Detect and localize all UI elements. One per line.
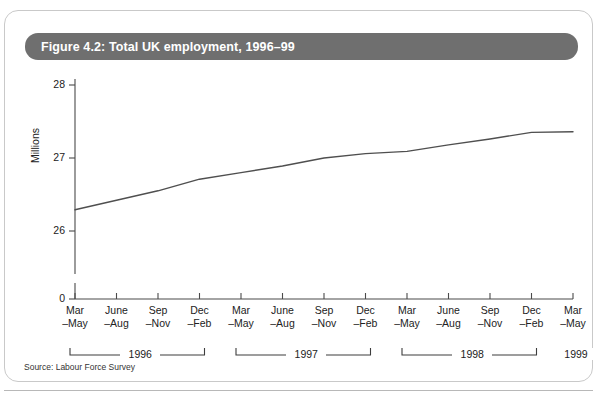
x-tick-label-line1: Sep <box>136 304 180 317</box>
x-tick-label-1: June–Aug <box>95 304 139 330</box>
x-tick-label-line2: –May <box>385 317 429 330</box>
x-tick-label-6: Sep–Nov <box>302 304 346 330</box>
x-tick-label-line1: Dec <box>344 304 388 317</box>
x-tick-label-8: Mar–May <box>385 304 429 330</box>
x-tick-label-7: Dec–Feb <box>344 304 388 330</box>
x-tick-label-line1: Mar <box>53 304 97 317</box>
x-tick-label-line1: June <box>427 304 471 317</box>
x-tick-label-line2: –Aug <box>427 317 471 330</box>
x-tick-label-5: June–Aug <box>261 304 305 330</box>
x-tick-label-3: Dec–Feb <box>178 304 222 330</box>
chart-plot-area <box>5 11 601 397</box>
source-note: Source: Labour Force Survey <box>24 362 135 372</box>
x-tick-label-line2: –May <box>53 317 97 330</box>
x-tick-label-line2: –Aug <box>261 317 305 330</box>
y-tick-label-28: 28 <box>39 78 65 90</box>
x-tick-label-11: Dec–Feb <box>510 304 554 330</box>
data-series-line <box>75 132 573 210</box>
x-tick-label-line2: –Feb <box>510 317 554 330</box>
y-tick-label-26: 26 <box>39 224 65 236</box>
bottom-divider <box>4 390 593 391</box>
x-tick-label-line2: –Nov <box>136 317 180 330</box>
x-tick-label-2: Sep–Nov <box>136 304 180 330</box>
x-tick-label-line1: June <box>261 304 305 317</box>
x-tick-label-line1: Mar <box>385 304 429 317</box>
x-tick-label-line1: Sep <box>302 304 346 317</box>
x-tick-label-line1: Sep <box>468 304 512 317</box>
figure-card: Figure 4.2: Total UK employment, 1996–99… <box>4 10 593 382</box>
x-axis-ticks <box>75 293 573 299</box>
x-tick-label-line2: –Feb <box>344 317 388 330</box>
chart-axes <box>69 79 573 299</box>
y-tick-label-0: 0 <box>39 292 65 304</box>
x-tick-label-line1: Mar <box>219 304 263 317</box>
year-label-1997: 1997 <box>286 348 326 360</box>
x-tick-label-line1: June <box>95 304 139 317</box>
x-tick-label-line1: Dec <box>178 304 222 317</box>
x-tick-label-line2: –Nov <box>468 317 512 330</box>
year-label-1998: 1998 <box>452 348 492 360</box>
year-label-1996: 1996 <box>120 348 160 360</box>
x-tick-label-0: Mar–May <box>53 304 97 330</box>
x-tick-label-line1: Dec <box>510 304 554 317</box>
x-tick-label-9: June–Aug <box>427 304 471 330</box>
x-tick-label-4: Mar–May <box>219 304 263 330</box>
x-tick-label-12: Mar–May <box>551 304 595 330</box>
x-tick-label-line2: –May <box>219 317 263 330</box>
x-tick-label-line2: –Nov <box>302 317 346 330</box>
x-tick-label-line1: Mar <box>551 304 595 317</box>
x-tick-label-line2: –Feb <box>178 317 222 330</box>
x-tick-label-line2: –Aug <box>95 317 139 330</box>
year-label-1999: 1999 <box>556 348 596 360</box>
y-tick-label-27: 27 <box>39 151 65 163</box>
x-tick-label-line2: –May <box>551 317 595 330</box>
x-tick-label-10: Sep–Nov <box>468 304 512 330</box>
